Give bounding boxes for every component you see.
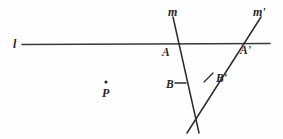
label-point-b-prime: B' bbox=[216, 73, 227, 85]
line-l bbox=[22, 44, 270, 45]
geometry-diagram: l m m' A A' B B' P bbox=[0, 0, 283, 139]
geometry-canvas bbox=[0, 0, 283, 139]
tick-mark-b-prime bbox=[204, 73, 213, 82]
label-line-m: m bbox=[168, 6, 177, 18]
label-point-b: B bbox=[166, 79, 174, 91]
label-line-l: l bbox=[13, 38, 16, 50]
label-point-p: P bbox=[102, 87, 109, 99]
label-line-m-prime: m' bbox=[253, 6, 266, 18]
line-m bbox=[173, 17, 199, 133]
point-p-dot bbox=[104, 80, 107, 83]
label-point-a-prime: A' bbox=[240, 45, 251, 57]
label-point-a: A bbox=[162, 47, 170, 59]
